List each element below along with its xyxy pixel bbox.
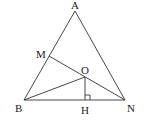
right-angle-mark <box>85 95 90 100</box>
label-H: H <box>81 104 89 116</box>
label-M: M <box>36 48 46 60</box>
segment-AB <box>24 11 75 100</box>
label-A: A <box>71 0 79 11</box>
label-N: N <box>127 102 135 114</box>
label-B: B <box>15 102 22 114</box>
segment-MN <box>49 56 125 100</box>
segment-AN <box>75 11 125 100</box>
geometry-diagram: A M O B H N <box>0 0 148 124</box>
label-O: O <box>81 64 89 76</box>
segment-BO <box>24 77 85 100</box>
